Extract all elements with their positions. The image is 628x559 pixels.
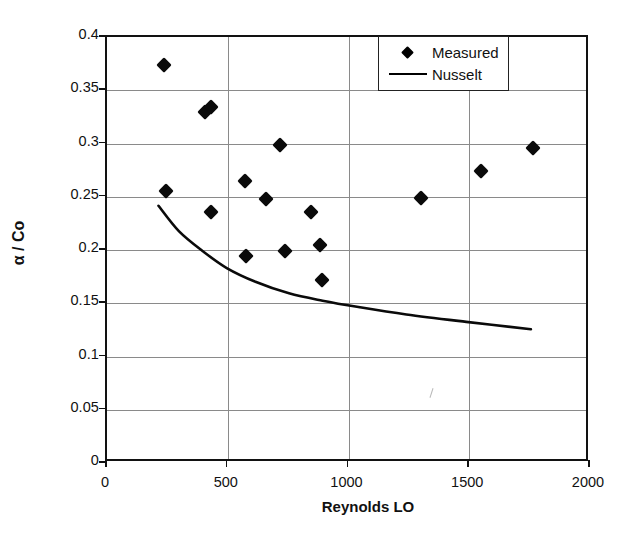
series-layer xyxy=(107,37,586,459)
y-axis-tick-label: 0.15 xyxy=(70,293,99,308)
nusselt-curve xyxy=(107,37,586,459)
y-axis-tick-label: 0.05 xyxy=(70,400,99,415)
legend-label-nusselt: Nusselt xyxy=(432,66,482,83)
y-axis-tick-mark xyxy=(99,142,106,144)
y-axis-tick-label: 0.35 xyxy=(70,80,99,95)
plot-area xyxy=(105,35,588,461)
legend-label-measured: Measured xyxy=(432,44,499,61)
x-axis-title: Reynolds LO xyxy=(0,498,628,515)
chart-figure: α / Co 00.050.10.150.20.250.30.350.4 050… xyxy=(0,0,628,559)
legend-item-nusselt: Nusselt xyxy=(386,63,499,85)
x-axis-tick-label: 1500 xyxy=(451,475,483,490)
y-axis-tick-mark xyxy=(99,355,106,357)
y-axis-tick-mark xyxy=(99,408,106,410)
x-axis-tick-mark xyxy=(588,460,590,467)
y-axis-tick-mark xyxy=(99,88,106,90)
y-axis-tick-label: 0.4 xyxy=(79,27,99,42)
x-axis-tick-label: 0 xyxy=(101,475,109,490)
x-axis-tick-label: 1000 xyxy=(330,475,362,490)
y-axis-tick-label: 0.1 xyxy=(79,347,99,362)
y-axis-tick-label: 0.3 xyxy=(79,134,99,149)
y-axis-tick-label: 0.2 xyxy=(79,240,99,255)
y-axis-tick-labels: 00.050.10.150.20.250.30.350.4 xyxy=(0,0,99,559)
chart-legend: Measured Nusselt xyxy=(378,36,509,91)
x-axis-tick-mark xyxy=(467,460,469,467)
line-marker-icon xyxy=(386,73,430,75)
y-axis-tick-mark xyxy=(99,461,106,463)
x-axis-tick-mark xyxy=(347,460,349,467)
x-axis-title-text: Reynolds LO xyxy=(322,498,415,515)
y-axis-tick-mark xyxy=(99,195,106,197)
y-axis-tick-label: 0.25 xyxy=(70,187,99,202)
legend-item-measured: Measured xyxy=(386,41,499,63)
y-axis-tick-mark xyxy=(99,248,106,250)
diamond-marker-icon xyxy=(386,48,430,57)
y-axis-tick-mark xyxy=(99,301,106,303)
y-axis-tick-label: 0 xyxy=(91,453,99,468)
y-axis-tick-mark xyxy=(99,35,106,37)
x-axis-tick-label: 500 xyxy=(214,475,238,490)
x-axis-tick-mark xyxy=(226,460,228,467)
x-axis-tick-label: 2000 xyxy=(572,475,604,490)
